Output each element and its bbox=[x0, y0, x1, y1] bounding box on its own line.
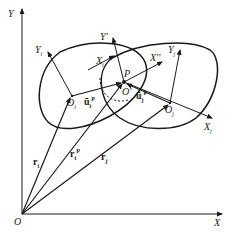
label-P: P bbox=[124, 69, 130, 79]
label-ri-sub: i bbox=[37, 163, 39, 169]
label-ui: ūiP bbox=[84, 96, 95, 109]
label-Oj: Oj bbox=[165, 105, 174, 117]
label-riP: riP bbox=[70, 148, 80, 161]
vector-rj bbox=[22, 105, 168, 214]
label-Y: Y bbox=[8, 9, 14, 19]
label-Yprime-text: Y' bbox=[100, 31, 108, 42]
label-Yprime: Y' bbox=[100, 32, 108, 42]
label-Yj-sub: j bbox=[174, 51, 176, 57]
label-Oprime: O' bbox=[122, 87, 131, 97]
label-Xdouble: X'' bbox=[150, 53, 160, 63]
label-uj: ūjP bbox=[136, 90, 147, 103]
label-P-text: P bbox=[124, 68, 130, 79]
label-ui-sup: P bbox=[91, 96, 95, 102]
label-Oprime-text: O' bbox=[122, 86, 131, 97]
label-rj-sub: j bbox=[105, 158, 107, 164]
label-uj-sub: j bbox=[142, 97, 144, 103]
label-Yi: Yi bbox=[35, 45, 42, 57]
label-Y-text: Y bbox=[8, 8, 14, 19]
axis-Yi bbox=[48, 52, 72, 96]
label-Yi-sub: i bbox=[41, 51, 43, 57]
label-Xj: Xj bbox=[204, 122, 212, 134]
label-Xi-sub: i bbox=[102, 62, 104, 68]
point-P bbox=[122, 80, 126, 84]
axis-Yj bbox=[170, 50, 180, 103]
label-uj-sup: P bbox=[144, 90, 148, 96]
label-O-text: O bbox=[14, 216, 21, 227]
label-O: O bbox=[14, 217, 21, 227]
label-Oj-sub: j bbox=[172, 111, 174, 117]
label-ui-sub: i bbox=[90, 103, 92, 109]
vector-uj bbox=[127, 84, 170, 103]
label-Xj-sub: j bbox=[210, 128, 212, 134]
label-Oi: Oi bbox=[67, 98, 76, 110]
label-X-text: X bbox=[214, 217, 220, 228]
coordinate-frame-diagram bbox=[0, 0, 233, 234]
label-Xi: Xi bbox=[96, 56, 104, 68]
label-X: X bbox=[214, 218, 220, 228]
label-Oi-sub: i bbox=[74, 104, 76, 110]
label-Yj: Yj bbox=[168, 45, 175, 57]
label-rj: rj bbox=[101, 152, 107, 164]
label-ri: ri bbox=[33, 157, 39, 169]
label-riP-sub: i bbox=[74, 155, 76, 161]
label-riP-sup: P bbox=[76, 148, 80, 154]
label-Xdouble-text: X'' bbox=[150, 52, 160, 63]
